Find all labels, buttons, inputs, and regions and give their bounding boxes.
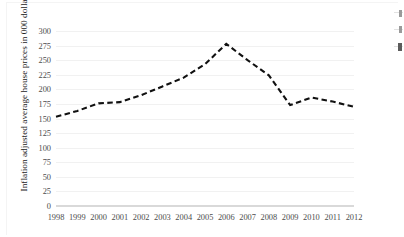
series-line-inflation-adjusted-house-prices (56, 44, 354, 117)
clipped-legend-swatch-1 (399, 10, 402, 17)
x-tick-label-2000: 2000 (90, 213, 107, 222)
y-tick-label-125: 125 (38, 129, 51, 138)
clipped-legend-swatch-3 (398, 43, 402, 51)
x-tick-label-1998: 1998 (48, 213, 65, 222)
y-tick-label-200: 200 (38, 85, 51, 94)
y-tick-label-0: 0 (47, 202, 51, 211)
clipped-legend-marks (391, 10, 403, 52)
y-tick-label-275: 275 (38, 41, 51, 50)
y-tick-label-225: 225 (38, 70, 51, 79)
x-tick-label-2008: 2008 (260, 213, 277, 222)
y-tick-label-150: 150 (38, 114, 51, 123)
chart-figure: Inflation adjusted average house prices … (0, 0, 404, 237)
x-tick-label-2007: 2007 (239, 213, 256, 222)
x-tick-label-2004: 2004 (175, 213, 192, 222)
x-tick-label-2002: 2002 (133, 213, 150, 222)
y-tick-label-175: 175 (38, 99, 51, 108)
x-tick-label-2009: 2009 (282, 213, 299, 222)
x-tick-label-1999: 1999 (69, 213, 86, 222)
clipped-legend-swatch-2 (399, 26, 402, 33)
y-tick-label-50: 50 (43, 172, 51, 181)
plot-area: 0255075100125150175200225250275300 19981… (56, 31, 354, 206)
y-tick-label-25: 25 (43, 187, 51, 196)
y-tick-label-75: 75 (43, 158, 51, 167)
x-tick-label-2012: 2012 (346, 213, 363, 222)
x-tick-label-2001: 2001 (111, 213, 128, 222)
page-top-hairline (6, 2, 398, 3)
y-axis-title: Inflation adjusted average house prices … (16, 0, 32, 192)
y-tick-label-100: 100 (38, 143, 51, 152)
x-tick-label-2010: 2010 (303, 213, 320, 222)
y-tick-label-250: 250 (38, 56, 51, 65)
page-left-hairline (6, 2, 7, 235)
gridline-0 (56, 206, 354, 207)
x-tick-label-2003: 2003 (154, 213, 171, 222)
x-tick-label-2011: 2011 (324, 213, 340, 222)
x-tick-label-2006: 2006 (218, 213, 235, 222)
y-tick-label-300: 300 (38, 27, 51, 36)
series-line-chart (56, 31, 354, 206)
x-tick-label-2005: 2005 (197, 213, 214, 222)
